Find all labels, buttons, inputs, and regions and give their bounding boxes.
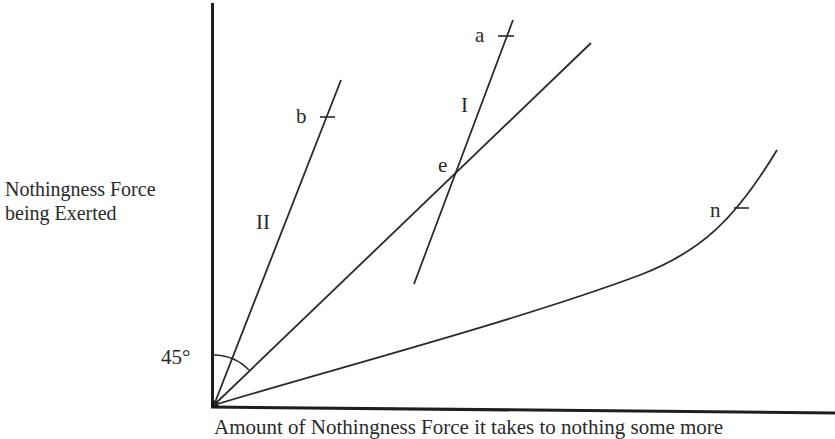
point-label-b: b	[296, 104, 307, 128]
line-label-II: II	[256, 210, 270, 234]
x-axis	[211, 407, 835, 413]
line-II	[214, 80, 341, 405]
y-axis-label-line2: being Exerted	[5, 201, 156, 225]
x-axis-label: Amount of Nothingness Force it takes to …	[214, 415, 723, 439]
line-label-I: I	[461, 93, 468, 117]
line-I	[414, 20, 513, 284]
y-axis-label: Nothingness Force being Exerted	[5, 177, 156, 225]
angle-label: 45°	[161, 345, 190, 369]
point-label-a: a	[475, 23, 484, 47]
y-axis-label-line1: Nothingness Force	[5, 177, 156, 201]
point-label-e: e	[438, 153, 447, 177]
point-label-n: n	[710, 198, 721, 222]
